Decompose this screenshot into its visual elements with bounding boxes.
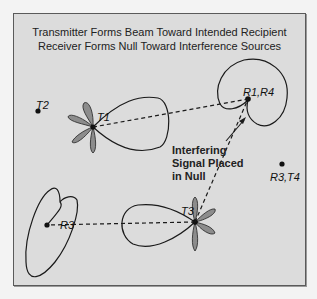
annotation-line-1: Interfering <box>172 144 244 157</box>
r3-receive-pattern <box>26 188 78 277</box>
r3-label: R3 <box>60 219 74 231</box>
r1r4-label: R1,R4 <box>243 86 274 98</box>
annotation-line-3: in Null <box>172 170 244 183</box>
annotation-line-2: Signal Placed <box>172 157 244 170</box>
t1-label: T1 <box>97 111 110 123</box>
r3t4-label: R3,T4 <box>270 171 300 183</box>
interference-arrow <box>226 120 244 141</box>
t2-label: T2 <box>36 99 49 111</box>
t3-label: T3 <box>181 205 194 217</box>
beamforming-diagram <box>0 0 317 299</box>
t1-r1-link <box>93 99 248 127</box>
r3t4-dot <box>279 161 284 166</box>
interference-annotation: Interfering Signal Placed in Null <box>172 144 244 183</box>
t1-main-beam <box>93 97 169 150</box>
